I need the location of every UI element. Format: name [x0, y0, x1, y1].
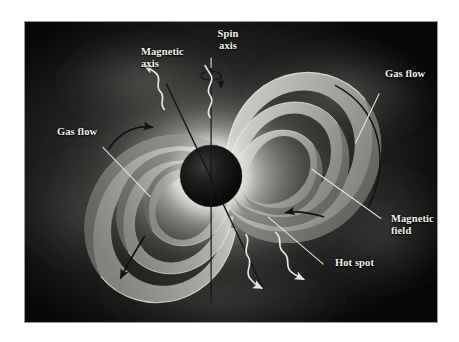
- illustration-plate: Spin axis Magnetic axis Gas flow Gas flo…: [24, 21, 438, 323]
- neutron-star-illustration: [25, 22, 437, 322]
- figure-page: Spin axis Magnetic axis Gas flow Gas flo…: [0, 0, 459, 342]
